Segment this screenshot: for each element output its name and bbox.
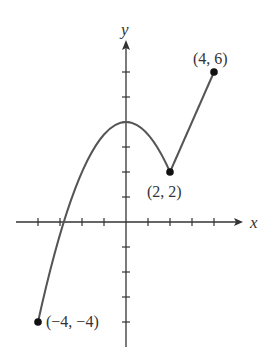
point-label-4-6: (4, 6) xyxy=(193,50,228,68)
y-axis: y xyxy=(119,20,130,347)
x-axis: x xyxy=(16,213,258,232)
x-axis-label: x xyxy=(249,213,258,232)
y-axis-label: y xyxy=(119,20,129,39)
endpoint-4-6 xyxy=(210,68,218,76)
point-label-neg4-neg4: (−4, −4) xyxy=(46,313,99,331)
endpoint-neg4-neg4 xyxy=(34,318,42,326)
graph-canvas: x y (4, xyxy=(0,0,264,361)
function-graph: x y (4, xyxy=(0,0,264,361)
point-label-2-2: (2, 2) xyxy=(147,183,182,201)
endpoint-2-2 xyxy=(166,168,174,176)
line-segment xyxy=(170,72,214,172)
